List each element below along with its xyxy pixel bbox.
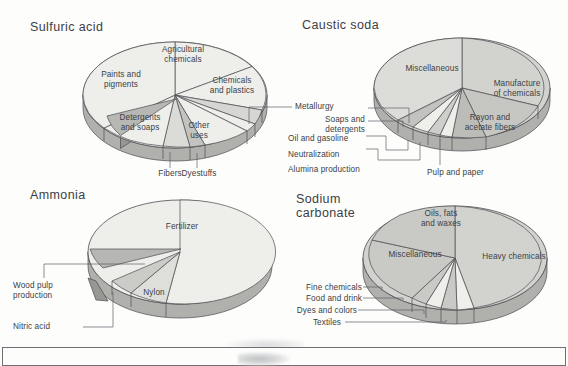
pie-caustic-soda	[366, 38, 550, 165]
label-fine-chemicals: Fine chemicals	[288, 283, 362, 293]
scan-smudge-lower	[238, 352, 290, 366]
label-other-uses: Other uses	[179, 121, 219, 140]
label-rayon-and-acetate-fibers: Rayon and acetate fibers	[452, 113, 528, 132]
label-alumina-production: Alumina production	[288, 165, 370, 175]
label-dyestuffs: Dyestuffs	[174, 169, 224, 179]
label-pulp-and-paper: Pulp and paper	[427, 168, 505, 178]
label-wood-pulp-production: Wood pulp production	[13, 281, 75, 300]
label-caustic-miscellaneous: Miscellaneous	[389, 64, 475, 74]
chart-title-ammonia: Ammonia	[30, 188, 86, 202]
pie-ammonia	[44, 200, 276, 327]
label-oils-fats-and-waxes: Oils, fats and waxes	[410, 209, 472, 228]
label-dyes-and-colors: Dyes and colors	[283, 306, 357, 316]
label-nitric-acid: Nitric acid	[13, 322, 75, 332]
label-paints-and-pigments: Paints and pigments	[85, 70, 157, 89]
label-nylon: Nylon	[135, 288, 173, 298]
label-textiles: Textiles	[283, 318, 341, 328]
label-manufacture-of-chemicals: Manufacture of chemicals	[480, 79, 554, 98]
label-heavy-chemicals: Heavy chemicals	[473, 252, 555, 262]
label-oil-and-gasoline: Oil and gasoline	[288, 134, 368, 144]
figure-four-pie-charts: .sl{stroke:#4a4c50;stroke-width:.7;} .ri…	[0, 0, 568, 366]
label-soaps-and-detergents: Soaps and detergents	[285, 115, 365, 134]
label-agricultural-chemicals: Agricultural chemicals	[144, 45, 222, 64]
chart-title-sodium-carbonate: Sodium carbonate	[296, 192, 355, 220]
label-sodium-miscellaneous: Miscellaneous	[374, 250, 456, 260]
chart-title-caustic-soda: Caustic soda	[302, 18, 379, 32]
chart-title-sulfuric-acid: Sulfuric acid	[30, 20, 103, 34]
label-neutralization: Neutralization	[288, 150, 364, 160]
leader-neutralization	[366, 136, 408, 150]
label-metallurgy: Metallurgy	[295, 102, 365, 112]
label-food-and-drink: Food and drink	[288, 294, 362, 304]
label-detergents-and-soaps: Detergents and soaps	[101, 113, 179, 132]
leader-alumina	[366, 142, 420, 160]
label-chemicals-and-plastics: Chemicals and plastics	[196, 76, 268, 95]
label-fertilizer: Fertilizer	[152, 222, 212, 232]
